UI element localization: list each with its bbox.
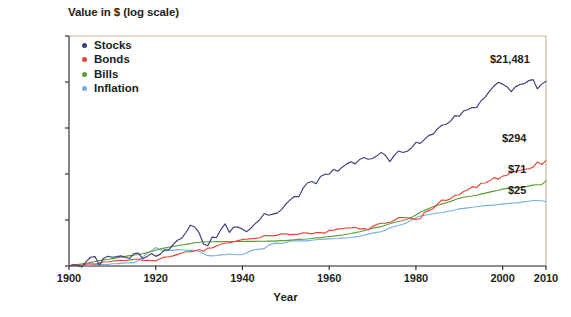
x-axis-tick-label: 2000	[490, 272, 514, 284]
legend-label: Bonds	[94, 54, 130, 66]
legend-item-bonds[interactable]: Bonds	[82, 53, 139, 68]
series-line-bills	[69, 181, 546, 266]
x-axis-tick-label: 1940	[230, 272, 254, 284]
x-axis-tick-label: 1920	[143, 272, 167, 284]
chart-container: Value in $ (log scale) StocksBondsBillsI…	[0, 0, 571, 317]
x-axis-tick-label: 1980	[404, 272, 428, 284]
legend-swatch-bonds-icon	[82, 57, 87, 62]
chart-legend: StocksBondsBillsInflation	[82, 38, 139, 96]
legend-swatch-inflation-icon	[82, 86, 87, 91]
legend-label: Inflation	[94, 83, 139, 95]
legend-item-bills[interactable]: Bills	[82, 67, 139, 82]
legend-item-inflation[interactable]: Inflation	[82, 82, 139, 97]
end-value-label-stocks: $21,481	[490, 53, 530, 65]
end-value-label-inflation: $25	[508, 184, 526, 196]
legend-label: Bills	[94, 69, 118, 81]
x-axis-tick-label: 2010	[534, 272, 558, 284]
end-value-label-bills: $71	[508, 163, 526, 175]
legend-label: Stocks	[94, 40, 132, 52]
legend-item-stocks[interactable]: Stocks	[82, 38, 139, 53]
legend-swatch-bills-icon	[82, 72, 87, 77]
legend-swatch-stocks-icon	[82, 43, 87, 48]
end-value-label-bonds: $294	[502, 132, 526, 144]
x-axis-tick-label: 1900	[57, 272, 81, 284]
series-line-bonds	[69, 161, 546, 266]
x-axis-tick-label: 1960	[317, 272, 341, 284]
x-axis-title: Year	[0, 291, 571, 303]
y-axis-title: Value in $ (log scale)	[68, 6, 179, 18]
